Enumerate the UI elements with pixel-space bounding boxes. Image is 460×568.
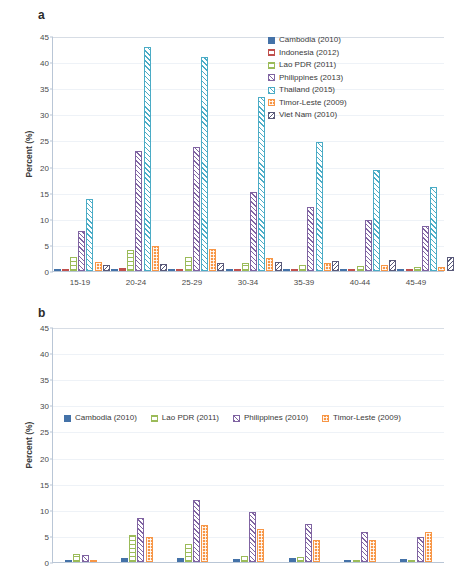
bar-group	[340, 37, 397, 271]
bar	[160, 264, 167, 271]
bar	[344, 560, 351, 562]
bar	[177, 558, 184, 562]
y-axis-tick-label: 5	[45, 532, 49, 541]
bar	[283, 269, 290, 271]
bar	[257, 529, 264, 562]
bar	[65, 560, 72, 562]
bar	[353, 560, 360, 562]
legend-item: Philippines (2013)	[268, 74, 347, 82]
bar-group	[168, 37, 225, 271]
bar-group	[110, 37, 167, 271]
panel-a-x-axis-labels: 15-1920-2425-2930-3435-3940-4445-49	[52, 278, 444, 287]
y-axis-tick-label: 40	[40, 350, 49, 359]
bar	[95, 262, 102, 271]
legend-item: Indonesia (2012)	[268, 49, 347, 57]
panel-a-y-axis-title: Percent (%)	[24, 119, 34, 189]
bar	[137, 518, 144, 562]
panel-b-letter: b	[38, 306, 45, 320]
legend-swatch	[268, 74, 275, 81]
legend-label: Viet Nam (2010)	[279, 111, 337, 119]
bar	[417, 537, 424, 562]
bar	[381, 265, 388, 271]
bar	[369, 540, 376, 562]
legend-item: Cambodia (2010)	[64, 414, 137, 422]
y-axis-tick-mark	[50, 563, 53, 564]
legend-label: Timor-Leste (2009)	[333, 414, 401, 422]
panel-a-bar-groups	[53, 37, 444, 271]
legend-label: Cambodia (2010)	[75, 414, 137, 422]
legend-swatch	[268, 99, 275, 106]
bar-group	[388, 328, 444, 562]
x-axis-tick-label: 40-44	[332, 278, 388, 287]
bar	[82, 555, 89, 562]
bar	[397, 269, 404, 271]
bar	[119, 268, 126, 271]
bar	[400, 559, 407, 562]
bar	[406, 269, 413, 271]
bar	[291, 269, 298, 271]
legend-item: Philippines (2010)	[233, 414, 308, 422]
legend-item: Thailand (2015)	[268, 86, 347, 94]
bar	[111, 269, 118, 271]
bar	[447, 257, 454, 271]
legend-label: Philippines (2010)	[244, 414, 308, 422]
bar	[425, 532, 432, 562]
bar	[70, 257, 77, 271]
panel-a-letter: a	[38, 8, 45, 22]
bar	[307, 207, 314, 271]
bar	[430, 187, 437, 271]
legend-label: Indonesia (2012)	[279, 49, 339, 57]
y-axis-tick-label: 10	[40, 215, 49, 224]
bar	[348, 269, 355, 271]
bar	[361, 532, 368, 562]
x-axis-tick-label: 30-34	[220, 278, 276, 287]
bar-group	[109, 328, 165, 562]
bar	[258, 97, 265, 271]
legend-label: Cambodia (2010)	[279, 36, 341, 44]
bar	[129, 535, 136, 562]
bar-group	[276, 328, 332, 562]
y-axis-tick-label: 10	[40, 506, 49, 515]
legend-item: Lao PDR (2011)	[151, 414, 219, 422]
y-axis-tick-label: 20	[40, 454, 49, 463]
bar	[78, 231, 85, 271]
x-axis-tick-label: 20-24	[108, 278, 164, 287]
bar	[316, 142, 323, 271]
bar	[242, 263, 249, 271]
bar	[299, 265, 306, 271]
panel-a-plot-area: 051015202530354045	[52, 37, 444, 272]
bar	[438, 267, 445, 271]
bar	[389, 260, 396, 271]
legend-swatch	[268, 87, 275, 94]
y-axis-tick-label: 25	[40, 428, 49, 437]
legend-label: Timor-Leste (2009)	[279, 99, 347, 107]
bar-group	[53, 328, 109, 562]
bar	[365, 220, 372, 271]
y-axis-tick-label: 30	[40, 111, 49, 120]
y-axis-tick-label: 15	[40, 189, 49, 198]
y-axis-tick-label: 40	[40, 59, 49, 68]
bar	[201, 57, 208, 271]
bar	[127, 250, 134, 271]
bar	[373, 170, 380, 271]
y-axis-tick-label: 45	[40, 33, 49, 42]
gridline	[53, 563, 444, 564]
legend-swatch	[151, 415, 158, 422]
y-axis-tick-label: 45	[40, 324, 49, 333]
chart-panel-b: b Percent (%) 051015202530354045 Cambodi…	[0, 298, 460, 564]
y-axis-tick-label: 0	[45, 559, 49, 568]
bar	[305, 524, 312, 562]
bar-group	[165, 328, 221, 562]
y-axis-tick-label: 35	[40, 376, 49, 385]
legend-swatch	[322, 415, 329, 422]
bar-group	[397, 37, 454, 271]
legend-item: Timor-Leste (2009)	[322, 414, 401, 422]
legend-item: Cambodia (2010)	[268, 36, 347, 44]
legend-label: Lao PDR (2011)	[162, 414, 219, 422]
bar	[146, 537, 153, 562]
legend-label: Lao PDR (2011)	[279, 61, 336, 69]
bar	[86, 199, 93, 271]
bar-group	[221, 328, 277, 562]
y-axis-tick-label: 0	[45, 268, 49, 277]
bar	[275, 262, 282, 271]
